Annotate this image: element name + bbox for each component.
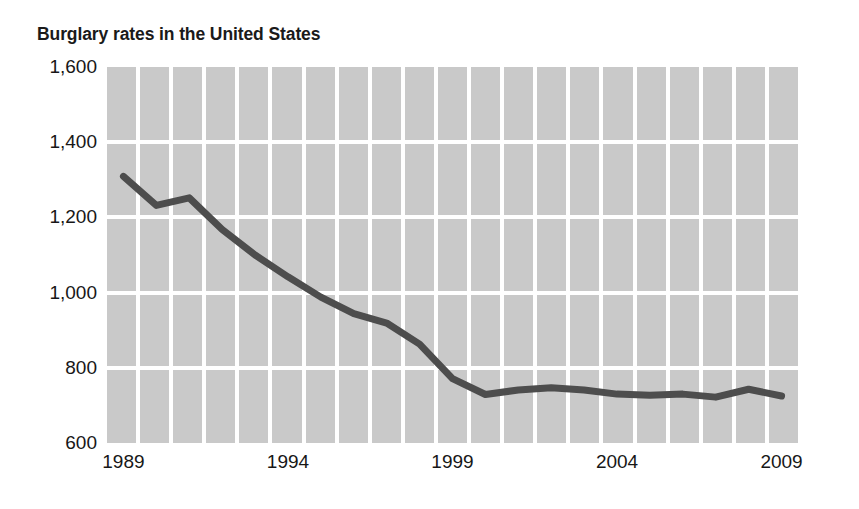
x-axis-tick-label: 1989 bbox=[102, 451, 144, 473]
chart-title: Burglary rates in the United States bbox=[37, 24, 320, 45]
plot-area bbox=[107, 67, 798, 443]
y-axis-tick-label: 1,400 bbox=[2, 131, 97, 153]
burglary-rates-chart: Burglary rates in the United States 1,60… bbox=[0, 0, 859, 509]
x-axis-tick-label: 2004 bbox=[596, 451, 638, 473]
x-axis: 19891994199920042009 bbox=[107, 451, 798, 485]
y-axis-tick-label: 600 bbox=[2, 432, 97, 454]
y-axis-tick-label: 1,600 bbox=[2, 56, 97, 78]
x-axis-tick-label: 2009 bbox=[760, 451, 802, 473]
y-axis: 1,6001,4001,2001,000800600 bbox=[0, 67, 97, 443]
x-axis-tick-label: 1994 bbox=[267, 451, 309, 473]
y-axis-tick-label: 800 bbox=[2, 357, 97, 379]
data-line-series bbox=[107, 67, 798, 443]
y-axis-tick-label: 1,200 bbox=[2, 206, 97, 228]
x-axis-tick-label: 1999 bbox=[431, 451, 473, 473]
y-axis-tick-label: 1,000 bbox=[2, 282, 97, 304]
